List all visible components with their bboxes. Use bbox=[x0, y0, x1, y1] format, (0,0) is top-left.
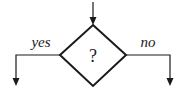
no-branch: no bbox=[126, 34, 174, 86]
no-label: no bbox=[141, 34, 157, 50]
arrowhead-icon bbox=[167, 78, 174, 86]
decision-flowchart: ? yes no bbox=[0, 0, 178, 94]
arrowhead-icon bbox=[13, 78, 20, 86]
yes-label: yes bbox=[29, 34, 50, 50]
decision-label: ? bbox=[89, 46, 97, 66]
decision-node: ? bbox=[60, 25, 126, 86]
yes-branch: yes bbox=[13, 34, 61, 86]
incoming-arrow bbox=[90, 2, 97, 25]
